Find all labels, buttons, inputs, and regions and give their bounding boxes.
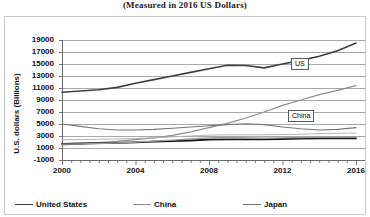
x-tick-label: 2016: [338, 167, 370, 175]
china-series-tag: China: [288, 110, 314, 122]
y-tick-label: 3000: [20, 132, 54, 140]
legend-label: Germany: [36, 215, 71, 217]
y-tick-label: 13000: [20, 72, 54, 80]
y-tick-marks: [59, 41, 62, 161]
series-lines: [62, 43, 356, 145]
y-tick-label: 1000: [20, 144, 54, 152]
legend-swatch: [15, 204, 33, 205]
legend-label: United States: [36, 200, 87, 209]
y-tick-label: 7000: [20, 108, 54, 116]
chart-plot-frame: 1900017000150001300011000900070005000300…: [4, 16, 366, 215]
y-tick-label: 19000: [20, 36, 54, 44]
x-tick-label: 2000: [44, 167, 80, 175]
y-axis-title: U.S. dollars (Billions): [12, 59, 21, 169]
y-tick-label: 17000: [20, 48, 54, 56]
x-tick-label: 2012: [265, 167, 301, 175]
legend-label: United Kingdom: [264, 215, 326, 217]
chart-legend: United StatesChinaJapanGermanyFranceUnit…: [15, 197, 367, 217]
x-tick-label: 2008: [191, 167, 227, 175]
legend-label: China: [154, 200, 176, 209]
chart-title: (Measured in 2016 US Dollars): [0, 0, 370, 10]
legend-item[interactable]: United Kingdom: [243, 215, 326, 217]
legend-label: France: [154, 215, 180, 217]
legend-item[interactable]: China: [133, 200, 176, 209]
legend-item[interactable]: Japan: [243, 200, 287, 209]
legend-row: GermanyFranceUnited Kingdom: [15, 212, 367, 217]
legend-row: United StatesChinaJapan: [15, 197, 367, 212]
y-tick-label: 9000: [20, 96, 54, 104]
y-tick-label: 5000: [20, 120, 54, 128]
x-tick-label: 2004: [118, 167, 154, 175]
y-tick-label: 11000: [20, 84, 54, 92]
y-tick-label: -1000: [20, 156, 54, 164]
legend-item[interactable]: France: [133, 215, 180, 217]
legend-item[interactable]: United States: [15, 200, 87, 209]
legend-item[interactable]: Germany: [15, 215, 71, 217]
legend-label: Japan: [264, 200, 287, 209]
us-series-tag: US: [291, 58, 309, 70]
legend-swatch: [243, 204, 261, 205]
y-tick-label: 15000: [20, 60, 54, 68]
chart-screenshot: (Measured in 2016 US Dollars) 1900017000…: [0, 0, 370, 217]
legend-swatch: [133, 204, 151, 205]
